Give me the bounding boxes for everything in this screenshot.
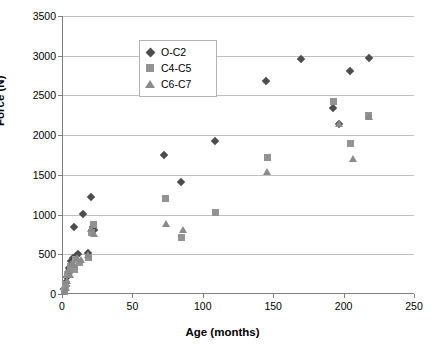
x-axis-label: Age (months) bbox=[0, 326, 445, 338]
x-tick-label: 250 bbox=[394, 300, 434, 312]
data-point bbox=[66, 271, 74, 278]
scatter-chart: Force (N) O-C2 C4-C5 C6-C7 0500100015002… bbox=[0, 0, 445, 361]
x-tick-label: 0 bbox=[42, 300, 82, 312]
y-tick-mark bbox=[58, 215, 62, 216]
y-tick-label: 1000 bbox=[10, 209, 56, 221]
data-point bbox=[63, 277, 71, 284]
data-point bbox=[347, 140, 354, 147]
data-point bbox=[70, 223, 78, 231]
data-point bbox=[364, 53, 372, 61]
data-point bbox=[62, 284, 70, 291]
square-marker-icon bbox=[144, 64, 156, 72]
gridline bbox=[63, 135, 414, 136]
gridline bbox=[63, 175, 414, 176]
y-tick-mark bbox=[58, 56, 62, 57]
y-tick-mark bbox=[58, 16, 62, 17]
gridline bbox=[63, 95, 414, 96]
data-point bbox=[330, 98, 337, 105]
data-point bbox=[78, 210, 86, 218]
y-tick-mark bbox=[58, 95, 62, 96]
gridline bbox=[63, 56, 414, 57]
legend-label-2: C6-C7 bbox=[161, 78, 191, 90]
data-point bbox=[179, 226, 187, 233]
data-point bbox=[84, 251, 92, 258]
gridline bbox=[63, 215, 414, 216]
data-point bbox=[87, 193, 95, 201]
data-point bbox=[349, 155, 357, 162]
x-tick-label: 200 bbox=[324, 300, 364, 312]
data-point bbox=[162, 220, 170, 227]
data-point bbox=[90, 230, 98, 237]
x-tick-mark bbox=[414, 294, 415, 298]
y-tick-label: 2500 bbox=[10, 89, 56, 101]
gridline bbox=[63, 16, 414, 17]
y-tick-label: 3500 bbox=[10, 10, 56, 22]
x-tick-mark bbox=[273, 294, 274, 298]
y-tick-label: 2000 bbox=[10, 129, 56, 141]
x-tick-mark bbox=[62, 294, 63, 298]
plot-area: O-C2 C4-C5 C6-C7 bbox=[62, 16, 414, 294]
x-tick-mark bbox=[132, 294, 133, 298]
x-tick-mark bbox=[203, 294, 204, 298]
legend: O-C2 C4-C5 C6-C7 bbox=[139, 40, 217, 97]
x-tick-label: 50 bbox=[112, 300, 152, 312]
legend-item-1: C4-C5 bbox=[144, 60, 212, 76]
data-point bbox=[365, 113, 373, 120]
x-tick-mark bbox=[344, 294, 345, 298]
data-point bbox=[262, 77, 270, 85]
y-tick-label: 1500 bbox=[10, 169, 56, 181]
data-point bbox=[263, 168, 271, 175]
legend-label-0: O-C2 bbox=[161, 46, 186, 58]
data-point bbox=[178, 234, 185, 241]
data-point bbox=[177, 177, 185, 185]
triangle-marker-icon bbox=[144, 80, 156, 88]
y-tick-label: 0 bbox=[10, 288, 56, 300]
data-point bbox=[264, 154, 271, 161]
data-point bbox=[211, 137, 219, 145]
y-axis-label: Force (N) bbox=[0, 76, 6, 126]
gridline bbox=[63, 254, 414, 255]
x-tick-label: 150 bbox=[253, 300, 293, 312]
legend-item-0: O-C2 bbox=[144, 44, 212, 60]
y-tick-label: 3000 bbox=[10, 50, 56, 62]
data-point bbox=[162, 195, 169, 202]
data-point bbox=[335, 120, 343, 127]
diamond-marker-icon bbox=[144, 49, 156, 56]
y-tick-mark bbox=[58, 254, 62, 255]
y-tick-mark bbox=[58, 175, 62, 176]
y-tick-mark bbox=[58, 135, 62, 136]
data-point bbox=[160, 150, 168, 158]
x-tick-label: 100 bbox=[183, 300, 223, 312]
legend-item-2: C6-C7 bbox=[144, 76, 212, 92]
data-point bbox=[346, 67, 354, 75]
legend-label-1: C4-C5 bbox=[161, 62, 191, 74]
y-tick-label: 500 bbox=[10, 248, 56, 260]
data-point bbox=[212, 209, 219, 216]
